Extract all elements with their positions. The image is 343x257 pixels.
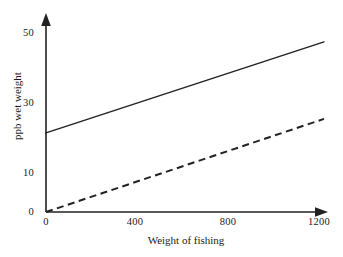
y-tick-label-10: 10 bbox=[8, 167, 34, 178]
x-tick-label-800: 800 bbox=[208, 216, 248, 227]
x-tick-label-1200: 1200 bbox=[299, 216, 339, 227]
series-line-solid bbox=[46, 42, 324, 133]
y-tick-label-50: 50 bbox=[8, 27, 34, 38]
chart-container: 50 30 10 0 0 400 800 1200 Weight of fish… bbox=[0, 0, 343, 257]
y-axis-arrow-icon bbox=[41, 13, 51, 26]
x-axis-title: Weight of fishing bbox=[106, 234, 266, 246]
x-tick-label-0: 0 bbox=[26, 216, 66, 227]
series-line-dashed bbox=[46, 119, 324, 212]
x-tick-label-400: 400 bbox=[115, 216, 155, 227]
y-axis-title: ppb wet weight bbox=[11, 56, 23, 156]
